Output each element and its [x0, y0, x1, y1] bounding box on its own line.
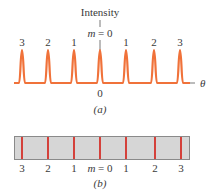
line-label-left-3: 3: [19, 162, 25, 174]
diffraction-grating-figure: Intensity m = 0 3 2 1 1 2 3 θ 0 (a) 3 2 …: [0, 0, 216, 190]
line-label-right-1: 1: [123, 162, 129, 174]
order-label-right-2: 2: [151, 36, 157, 48]
zero-angle-label: 0: [97, 87, 103, 99]
order-label-right-3: 3: [177, 36, 183, 48]
order-label-right-1: 1: [123, 36, 129, 48]
screen-line-pattern: 3 2 1 m = 0 1 2 3 (b): [15, 137, 190, 191]
line-label-center: m = 0: [87, 162, 113, 174]
order-label-left-1: 1: [71, 36, 77, 48]
line-label-left-2: 2: [45, 162, 51, 174]
intensity-curve: [14, 50, 190, 83]
order-label-left-2: 2: [45, 36, 51, 48]
caption-b: (b): [94, 177, 107, 190]
intensity-pattern-plot: Intensity m = 0 3 2 1 1 2 3 θ 0 (a): [14, 6, 206, 116]
line-label-right-2: 2: [152, 162, 158, 174]
axis-title-intensity: Intensity: [81, 6, 120, 18]
line-label-left-1: 1: [71, 162, 77, 174]
order-label-left-3: 3: [19, 36, 25, 48]
line-label-right-3: 3: [178, 162, 184, 174]
center-order-label: m = 0: [87, 27, 113, 39]
viewing-screen: [15, 137, 190, 160]
theta-axis-label: θ: [200, 77, 206, 89]
caption-a: (a): [94, 103, 107, 116]
